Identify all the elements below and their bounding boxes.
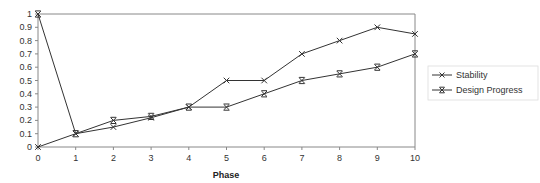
x-bar-marker-icon <box>261 91 267 97</box>
y-tick-label: 1 <box>27 9 32 19</box>
x-tick-label: 0 <box>35 153 40 163</box>
x-tick-label: 5 <box>224 153 229 163</box>
series-stability <box>35 25 418 150</box>
x-tick-label: 7 <box>299 153 304 163</box>
x-tick-label: 2 <box>111 153 116 163</box>
legend-label: Stability <box>456 70 488 80</box>
y-tick-label: 0.1 <box>19 129 32 139</box>
x-tick-label: 6 <box>262 153 267 163</box>
x-marker-icon <box>337 38 343 44</box>
x-tick-label: 9 <box>375 153 380 163</box>
legend: Stability Design Progress <box>428 66 538 100</box>
y-tick-label: 0.3 <box>19 102 32 112</box>
y-tick-label: 0.2 <box>19 115 32 125</box>
y-tick-label: 0 <box>27 142 32 152</box>
x-tick-label: 8 <box>337 153 342 163</box>
y-axis: 00.10.20.30.40.50.60.70.80.91 <box>19 9 38 152</box>
x-tick-label: 10 <box>410 153 420 163</box>
series-design-progress <box>35 11 418 137</box>
x-marker-icon <box>299 51 305 57</box>
y-tick-label: 0.7 <box>19 49 32 59</box>
y-tick-label: 0.9 <box>19 22 32 32</box>
y-tick-label: 0.6 <box>19 62 32 72</box>
x-axis: 012345678910 <box>35 147 420 163</box>
legend-label: Design Progress <box>456 85 523 95</box>
series-layer <box>35 11 418 150</box>
x-tick-label: 4 <box>186 153 191 163</box>
y-tick-label: 0.4 <box>19 89 32 99</box>
x-tick-label: 1 <box>73 153 78 163</box>
line-chart: 00.10.20.30.40.50.60.70.80.91 0123456789… <box>0 0 540 183</box>
x-tick-label: 3 <box>149 153 154 163</box>
y-tick-label: 0.8 <box>19 36 32 46</box>
y-tick-label: 0.5 <box>19 76 32 86</box>
x-axis-title: Phase <box>213 170 240 180</box>
